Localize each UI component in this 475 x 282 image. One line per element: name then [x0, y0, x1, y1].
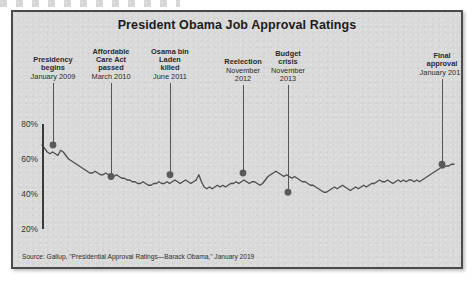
event-data-marker	[285, 189, 292, 196]
y-tick-label: 20%	[12, 224, 38, 234]
y-tick-label: 60%	[12, 154, 38, 164]
scan-artifact	[0, 0, 180, 7]
event-data-marker	[240, 170, 247, 177]
chart-frame: President Obama Job Approval Ratings Pre…	[11, 10, 463, 269]
event-data-marker	[439, 161, 446, 168]
event-data-marker	[108, 173, 115, 180]
y-axis-line	[42, 124, 44, 229]
approval-line-chart	[13, 12, 463, 269]
y-tick-label: 40%	[12, 189, 38, 199]
event-data-marker	[167, 171, 174, 178]
figure-root: President Obama Job Approval Ratings Pre…	[0, 0, 475, 282]
approval-trend-line	[42, 145, 454, 192]
y-tick-label: 80%	[12, 119, 38, 129]
source-note: Source: Gallup, "Presidential Approval R…	[22, 253, 254, 260]
event-data-marker	[50, 142, 57, 149]
